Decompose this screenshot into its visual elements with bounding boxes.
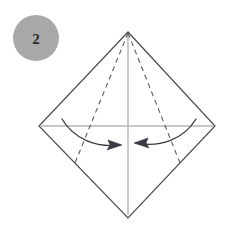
right-fold-arrow — [134, 119, 196, 148]
left-dashed-fold-line — [75, 33, 128, 163]
step-badge-label: 2 — [32, 31, 40, 47]
origami-diagram-canvas: 2 — [0, 0, 235, 226]
center-crease-group — [41, 33, 213, 214]
origami-diagram-svg: 2 — [0, 0, 235, 226]
right-fold-arrow-head — [134, 138, 149, 148]
step-number-badge: 2 — [13, 15, 59, 61]
left-fold-arrow — [62, 119, 122, 150]
